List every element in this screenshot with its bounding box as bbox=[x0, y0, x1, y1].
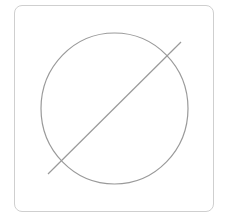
circle-slash-icon bbox=[0, 0, 231, 222]
diagonal-line bbox=[48, 42, 181, 174]
diagram-canvas bbox=[0, 0, 231, 222]
